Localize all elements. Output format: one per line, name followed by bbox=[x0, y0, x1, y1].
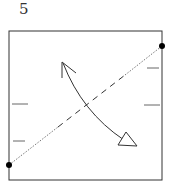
arrowhead-open-icon bbox=[62, 62, 76, 78]
reference-dot-upper-right bbox=[159, 43, 165, 49]
fold-line-dashed bbox=[58, 75, 125, 127]
arrowhead-hollow-triangle-icon bbox=[118, 132, 137, 146]
origami-diagram bbox=[0, 0, 170, 192]
fold-line-dotted-upper bbox=[125, 46, 162, 75]
fold-arrow-curve bbox=[63, 63, 124, 140]
fold-line-dotted-lower bbox=[9, 127, 58, 165]
reference-dot-lower-left bbox=[6, 162, 12, 168]
